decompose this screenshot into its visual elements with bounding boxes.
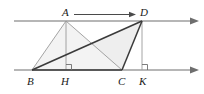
geometry-figure: A D B H C K — [0, 0, 204, 94]
vertex-label-d: D — [140, 7, 148, 18]
vertex-label-k: K — [139, 76, 146, 87]
right-angle-marker-k-icon — [142, 65, 148, 71]
vertex-label-a: A — [62, 7, 69, 18]
bottom-line-arrowhead-icon — [190, 67, 199, 74]
ad-direction-arrowhead-icon — [129, 12, 136, 17]
vertex-label-b: B — [27, 76, 34, 87]
vertex-label-c: C — [118, 76, 125, 87]
vertex-label-h: H — [61, 76, 69, 87]
top-line-arrowhead-icon — [190, 18, 199, 25]
